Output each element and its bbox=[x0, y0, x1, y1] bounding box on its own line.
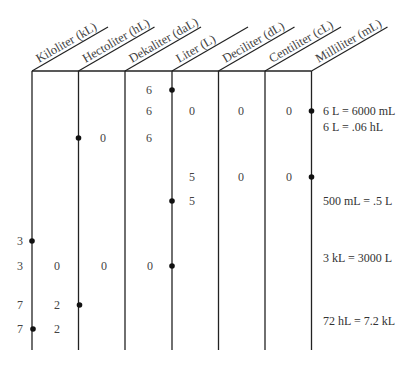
metric-place-value-diagram: Kiloliter (kL) Hectoliter (hL) Dekaliter… bbox=[0, 0, 415, 366]
decimal-point bbox=[76, 135, 82, 141]
decimal-point bbox=[30, 326, 36, 332]
digit: 2 bbox=[54, 298, 60, 312]
digit: 0 bbox=[238, 170, 244, 184]
digit: 3 bbox=[17, 234, 23, 248]
digit: 0 bbox=[286, 170, 292, 184]
decimal-point bbox=[77, 302, 83, 308]
equation-6l-6000ml: 6 L = 6000 mL bbox=[323, 104, 395, 118]
digit: 6 bbox=[146, 83, 152, 97]
digit: 0 bbox=[101, 259, 107, 273]
digit: 0 bbox=[100, 131, 106, 145]
digit: 5 bbox=[189, 170, 195, 184]
equations: 6 L = 6000 mL 6 L = .06 hL 500 mL = .5 L… bbox=[323, 104, 395, 328]
digit: 7 bbox=[17, 298, 23, 312]
decimal-point bbox=[169, 263, 175, 269]
equation-3kl-3000l: 3 kL = 3000 L bbox=[323, 251, 392, 265]
digit: 5 bbox=[189, 194, 195, 208]
digit: 0 bbox=[54, 259, 60, 273]
decimal-point bbox=[169, 198, 175, 204]
digit: 0 bbox=[238, 104, 244, 118]
digit: 6 bbox=[146, 104, 152, 118]
equation-500ml-5l: 500 mL = .5 L bbox=[323, 194, 392, 208]
digit: 6 bbox=[146, 131, 152, 145]
digit: 0 bbox=[147, 259, 153, 273]
digit: 3 bbox=[17, 259, 23, 273]
digit: 0 bbox=[189, 104, 195, 118]
equation-6l-06hl: 6 L = .06 hL bbox=[323, 120, 383, 134]
decimal-point bbox=[169, 87, 175, 93]
digit: 7 bbox=[17, 322, 23, 336]
digits: 6 6 0 0 0 0 6 5 0 0 5 3 3 0 0 0 7 2 7 2 bbox=[17, 83, 292, 336]
decimal-point bbox=[309, 108, 315, 114]
digit: 2 bbox=[54, 322, 60, 336]
column-lines bbox=[32, 71, 312, 350]
decimal-point bbox=[29, 238, 35, 244]
decimal-point bbox=[309, 174, 315, 180]
digit: 0 bbox=[286, 104, 292, 118]
equation-72hl-72kl: 72 hL = 7.2 kL bbox=[323, 314, 395, 328]
